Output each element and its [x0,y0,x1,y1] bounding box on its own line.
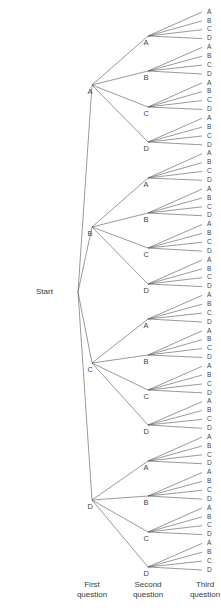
third-question-leaf-0-a: A [207,9,211,16]
edge-l2-0-to-leaf-0 [148,12,202,36]
third-question-leaf-24-a: A [207,221,211,228]
third-question-leaf-40-a: A [207,363,211,370]
edge-l2-6-to-leaf-0 [148,225,202,248]
edge-l2-11-to-leaf-1 [148,411,202,425]
third-question-leaf-48-a: A [207,434,211,441]
second-question-node-8-a: A [144,322,149,330]
third-question-leaf-55-d: D [207,496,212,503]
first-question-node-d: D [88,503,94,511]
edge-l2-3-to-leaf-0 [148,118,202,142]
third-question-leaf-39-d: D [207,354,212,361]
edge-l2-15-to-leaf-2 [148,561,202,567]
third-question-leaf-58-c: C [207,522,212,529]
third-question-leaf-35-d: D [207,319,212,326]
third-question-leaf-10-c: C [207,97,212,104]
edge-l2-10-to-leaf-1 [148,375,202,390]
third-question-leaf-42-c: C [207,381,212,388]
third-question-leaf-38-c: C [207,345,212,352]
caption-line-2: question [190,590,220,600]
third-question-leaf-60-a: A [207,540,211,547]
edge-l1-1-to-l2-0 [92,178,148,227]
second-question-node-5-b: B [144,216,149,224]
edge-l2-10-to-leaf-3 [148,390,202,393]
third-question-leaf-53-b: B [207,478,211,485]
third-question-leaf-36-a: A [207,328,211,335]
third-question-leaf-37-b: B [207,336,211,343]
edge-l2-9-to-leaf-2 [148,349,202,355]
edge-l2-10-to-leaf-2 [148,384,202,390]
edge-l2-7-to-leaf-3 [148,284,202,287]
third-question-leaf-29-b: B [207,266,211,273]
first-question-node-c: C [88,366,94,374]
edge-start-to-l1-3 [78,292,92,500]
edge-l2-1-to-leaf-3 [148,71,202,74]
edge-l2-9-to-leaf-3 [148,355,202,357]
third-question-leaf-59-d: D [207,531,212,538]
edge-l2-9-to-leaf-0 [148,331,202,355]
second-question-node-12-a: A [144,464,149,472]
third-question-leaf-12-a: A [207,115,211,122]
edge-l2-12-to-leaf-3 [148,461,202,464]
third-question-leaf-28-a: A [207,257,211,264]
third-question-leaf-32-a: A [207,292,211,299]
third-question-leaf-7-d: D [207,71,212,78]
caption-line-1: Third [190,580,220,590]
second-question-node-10-c: C [144,393,150,401]
third-question-leaf-18-c: C [207,168,212,175]
third-question-leaf-43-d: D [207,390,212,397]
third-question-leaf-63-d: D [207,567,212,574]
edge-l2-4-to-leaf-3 [148,178,202,180]
third-question-leaf-44-a: A [207,398,211,405]
edge-l2-14-to-leaf-2 [148,526,202,532]
edge-start-to-l1-0 [78,85,92,292]
edge-l2-6-to-leaf-1 [148,233,202,248]
third-question-leaf-2-c: C [207,26,212,33]
second-question-node-3-d: D [144,145,150,153]
caption-first-question: Firstquestion [77,580,107,599]
third-question-leaf-34-c: C [207,310,212,317]
caption-line-1: First [77,580,107,590]
start-node-label: Start [36,288,53,296]
third-question-leaf-8-a: A [207,80,211,87]
second-question-node-6-c: C [144,251,150,259]
edge-l1-3-to-l2-2 [92,500,148,532]
edge-l2-4-to-leaf-1 [148,163,202,178]
edge-l2-8-to-leaf-0 [148,295,202,319]
third-question-leaf-4-a: A [207,44,211,51]
caption-line-2: question [77,590,107,600]
edge-l2-8-to-leaf-3 [148,319,202,322]
third-question-leaf-16-a: A [207,150,211,157]
edge-l2-14-to-leaf-1 [148,517,202,532]
third-question-leaf-19-d: D [207,177,212,184]
third-question-leaf-14-c: C [207,133,212,140]
edge-l2-0-to-leaf-3 [148,36,202,39]
edge-l2-5-to-leaf-0 [148,189,202,213]
edge-l2-13-to-leaf-3 [148,496,202,499]
third-question-leaf-5-b: B [207,53,211,60]
second-question-node-2-c: C [144,110,150,118]
edge-l2-2-to-leaf-3 [148,107,202,109]
edge-l2-13-to-leaf-1 [148,481,202,496]
edge-l1-1-to-l2-2 [92,227,148,248]
third-question-leaf-13-b: B [207,124,211,131]
edge-l1-2-to-l2-3 [92,363,148,425]
third-question-leaf-41-b: B [207,372,211,379]
third-question-leaf-27-d: D [207,248,212,255]
decision-tree-diagram: StartABCDABCDABCDABCDABCDABCDABCDABCDABC… [0,0,221,614]
first-question-node-a: A [88,88,93,96]
edge-l2-4-to-leaf-0 [148,154,202,178]
first-question-node-b: B [88,230,93,238]
edge-l2-3-to-leaf-1 [148,127,202,142]
third-question-leaf-61-b: B [207,549,211,556]
second-question-node-1-b: B [144,74,149,82]
second-question-node-14-c: C [144,535,150,543]
second-question-node-7-d: D [144,287,150,295]
edge-l2-11-to-leaf-2 [148,419,202,425]
edge-l2-11-to-leaf-3 [148,425,202,428]
edge-l2-12-to-leaf-2 [148,455,202,461]
third-question-leaf-56-a: A [207,505,211,512]
edge-l2-1-to-leaf-2 [148,65,202,71]
third-question-leaf-31-d: D [207,283,212,290]
third-question-leaf-21-b: B [207,195,211,202]
edge-l1-1-to-l2-3 [92,227,148,284]
